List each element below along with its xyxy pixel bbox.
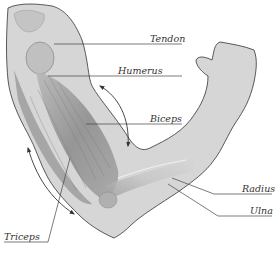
label-triceps: Triceps: [4, 232, 40, 242]
humerus-head: [26, 42, 54, 74]
label-ulna: Ulna: [250, 206, 273, 216]
arm-outline: [7, 4, 257, 238]
label-humerus: Humerus: [118, 66, 163, 76]
label-tendon: Tendon: [150, 34, 185, 44]
label-radius: Radius: [242, 184, 275, 194]
elbow-joint: [99, 192, 117, 208]
label-biceps: Biceps: [150, 114, 182, 124]
arm-anatomy-diagram: [0, 0, 276, 254]
